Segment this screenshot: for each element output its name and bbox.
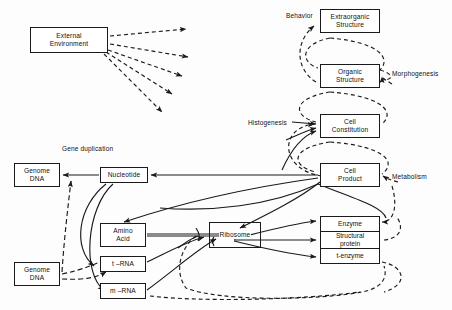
stack-label-line: t-enzyme bbox=[336, 252, 363, 260]
label-line: duplication bbox=[80, 145, 113, 152]
node-label-line: Extraorganic bbox=[331, 13, 370, 21]
node-label-line: Cell bbox=[344, 118, 356, 126]
node-m-rna[interactable]: m –RNA bbox=[100, 283, 146, 299]
node-label-line: Ribosome bbox=[219, 231, 252, 239]
node-ribosome[interactable]: Ribosome bbox=[209, 222, 261, 248]
diagram-canvas: External Environment Extraorganic Struct… bbox=[0, 0, 452, 310]
label-metabolism: Metabolism bbox=[392, 173, 427, 180]
label-histogenesis: Histogenesis bbox=[248, 119, 287, 126]
node-label-line: External bbox=[56, 32, 81, 40]
edge-cellproduct-sweep bbox=[160, 184, 386, 218]
edge-trna-ribosome bbox=[147, 237, 204, 262]
node-label-line: Acid bbox=[116, 235, 129, 243]
label-morphogenesis: Morphogenesis bbox=[392, 70, 438, 77]
node-genome-dna-top[interactable]: Genome DNA bbox=[14, 163, 60, 187]
node-label-line: Genome bbox=[24, 167, 50, 175]
node-label-line: Amino bbox=[113, 227, 132, 235]
stack-cell-structural-protein[interactable]: Structural protein bbox=[321, 232, 379, 249]
node-label-line: Constitution bbox=[332, 126, 369, 134]
enzyme-stack[interactable]: Enzyme Structural protein t-enzyme bbox=[320, 216, 380, 264]
node-label-line: m –RNA bbox=[110, 287, 136, 295]
edge-environment-fan bbox=[104, 29, 188, 112]
node-label-line: Environment bbox=[50, 40, 89, 48]
stack-cell-enzyme[interactable]: Enzyme bbox=[321, 217, 379, 232]
node-label-line: Structure bbox=[336, 76, 364, 84]
node-extraorganic-structure[interactable]: Extraorganic Structure bbox=[320, 9, 380, 33]
node-cell-constitution[interactable]: Cell Constitution bbox=[320, 114, 380, 138]
node-genome-dna-bottom[interactable]: Genome DNA bbox=[14, 262, 60, 286]
stack-label-line: Structural bbox=[336, 232, 364, 240]
node-nucleotide[interactable]: Nucleotide bbox=[100, 167, 148, 183]
edge-mrna-ribosome bbox=[147, 239, 216, 290]
label-behavior: Behavior bbox=[286, 12, 313, 19]
node-label-line: DNA bbox=[30, 175, 44, 183]
node-label-line: Nucleotide bbox=[108, 171, 141, 179]
node-organic-structure[interactable]: Organic Structure bbox=[320, 64, 380, 88]
node-label-line: Genome bbox=[24, 266, 50, 274]
node-t-rna[interactable]: t –RNA bbox=[100, 256, 146, 272]
label-line: Gene bbox=[62, 145, 79, 152]
stack-cell-t-enzyme[interactable]: t-enzyme bbox=[321, 249, 379, 263]
stack-label-line: protein bbox=[340, 240, 360, 248]
node-label-line: DNA bbox=[30, 274, 44, 282]
node-external-environment[interactable]: External Environment bbox=[30, 27, 108, 53]
node-label-line: Product bbox=[338, 175, 362, 183]
label-gene-duplication: Gene duplication bbox=[62, 145, 113, 153]
edge-behavior bbox=[300, 26, 316, 82]
stack-label-line: Enzyme bbox=[338, 220, 362, 228]
node-amino-acid[interactable]: Amino Acid bbox=[100, 223, 146, 247]
node-label-line: Structure bbox=[336, 21, 364, 29]
node-cell-product[interactable]: Cell Product bbox=[320, 163, 380, 187]
edge-cellproduct-aminoacid bbox=[124, 178, 318, 222]
node-label-line: Cell bbox=[344, 167, 356, 175]
node-label-line: t –RNA bbox=[112, 260, 134, 268]
node-label-line: Organic bbox=[338, 68, 362, 76]
